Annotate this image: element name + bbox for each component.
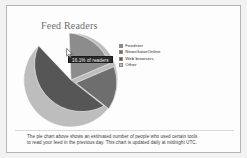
page-title: Feed Readers <box>41 20 98 31</box>
pie-chart[interactable] <box>23 32 119 128</box>
legend-item-newsgatoronline[interactable]: NewsGatorOnline <box>119 49 223 55</box>
pie-chart-svg[interactable] <box>23 32 119 128</box>
caption-line-2: to read your feed in the previous day. T… <box>27 140 225 146</box>
page-frame: Feed Readers 16.1% of readers <box>6 5 241 153</box>
legend-item-label: Web browsers <box>125 56 154 62</box>
legend-swatch-icon <box>119 50 123 54</box>
caption-divider <box>15 130 234 131</box>
legend-swatch-icon <box>119 44 123 48</box>
legend-item-feedster[interactable]: Feedster <box>119 43 223 49</box>
mouse-cursor-icon <box>66 48 73 58</box>
legend-swatch-icon <box>119 63 123 67</box>
chart-caption: The pie chart above shows an estimated n… <box>27 134 225 146</box>
legend-item-label: Feedster <box>125 43 143 49</box>
legend-item-other[interactable]: Other <box>119 62 223 68</box>
screenshot-root: Feed Readers 16.1% of readers <box>0 0 247 158</box>
legend-item-label: Other <box>125 62 136 68</box>
pie-slice-tooltip: 16.1% of readers <box>68 56 113 63</box>
legend-item-label: NewsGatorOnline <box>125 49 160 55</box>
chart-legend: Feedster NewsGatorOnline Web browsers Ot… <box>119 43 223 69</box>
chart-card: Feed Readers 16.1% of readers <box>15 12 234 129</box>
legend-swatch-icon <box>119 57 123 61</box>
legend-item-web-browsers[interactable]: Web browsers <box>119 56 223 62</box>
